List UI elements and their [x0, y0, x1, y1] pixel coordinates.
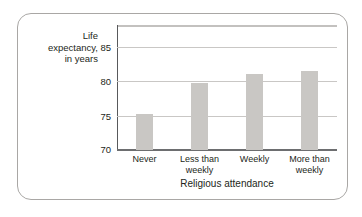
chart-figure: Life expectancy, in years 85 80 75 70 Ne… — [0, 0, 362, 217]
x-tick-label-more-than-weekly-line-2: weekly — [296, 165, 324, 175]
y-tick-label-75: 75 — [100, 110, 111, 121]
x-tick-label-less-than-weekly-line-1: Less than — [180, 154, 219, 164]
bar-more-than-weekly[interactable] — [301, 71, 318, 150]
x-tick-label-weekly-line-1: Weekly — [240, 154, 269, 164]
bar-never[interactable] — [136, 114, 153, 150]
x-tick-label-weekly: Weekly — [227, 154, 282, 165]
y-axis-title: Life expectancy, in years — [26, 30, 98, 65]
plot-area: 85 80 75 70 Never Less than weekly Weekl… — [117, 25, 337, 150]
gridline-85: 85 — [117, 47, 337, 48]
y-tick-label-85: 85 — [100, 41, 111, 52]
x-tick-label-less-than-weekly: Less than weekly — [172, 154, 227, 175]
x-tick-label-less-than-weekly-line-2: weekly — [186, 165, 214, 175]
y-axis-title-line-3: in years — [26, 53, 98, 65]
x-tick-label-more-than-weekly-line-1: More than — [289, 154, 330, 164]
y-tick-label-80: 80 — [100, 76, 111, 87]
y-axis-line — [117, 25, 118, 150]
y-tick-label-70: 70 — [100, 144, 111, 155]
x-axis-title: Religious attendance — [117, 178, 337, 189]
bar-weekly[interactable] — [246, 74, 263, 150]
plot-top-band — [117, 25, 337, 27]
y-axis-title-line-2: expectancy, — [26, 42, 98, 54]
bar-less-than-weekly[interactable] — [191, 83, 208, 150]
y-axis-title-line-1: Life — [26, 30, 98, 42]
x-tick-label-never: Never — [117, 154, 172, 165]
x-tick-label-more-than-weekly: More than weekly — [282, 154, 337, 175]
x-tick-label-never-line-1: Never — [132, 154, 156, 164]
